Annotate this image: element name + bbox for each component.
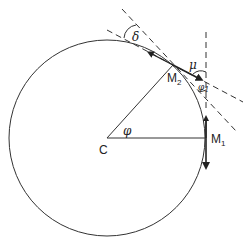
arc-arrow-m2 <box>150 53 173 65</box>
radius-to-m2 <box>107 65 173 138</box>
dashed-secant-line <box>122 9 236 131</box>
circle-diagram: C M1 M2 φ φ1 μ δ <box>0 0 247 238</box>
label-angle-delta: δ <box>132 30 139 44</box>
label-m1: M1 <box>211 132 226 148</box>
label-center-c: C <box>99 143 108 157</box>
label-m2: M2 <box>167 71 182 87</box>
label-angle-mu: μ <box>189 58 197 72</box>
label-angle-phi: φ <box>123 124 132 138</box>
